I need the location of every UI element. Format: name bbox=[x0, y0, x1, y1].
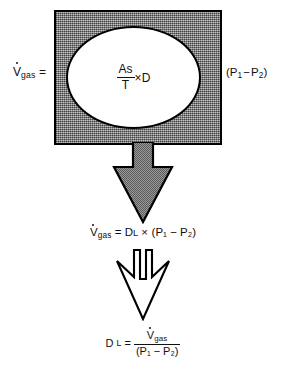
bottom-equation-row: DL = Vgas (P₁ − P₂) bbox=[106, 330, 181, 358]
mid-d-letter: D bbox=[125, 226, 133, 238]
multiplication-sign: × bbox=[135, 72, 142, 84]
left-expression: Vgas = bbox=[13, 66, 46, 80]
gray-down-arrow-icon bbox=[106, 142, 180, 224]
as-over-t-fraction: As T bbox=[117, 63, 135, 91]
mid-d-subscript: L bbox=[133, 228, 138, 238]
bottom-fraction-denominator: (P₁ − P₂) bbox=[134, 344, 181, 358]
v-dot-variable: V bbox=[13, 66, 21, 78]
mid-equals-sign: = bbox=[115, 226, 122, 238]
mid-pressure-gradient: (P₁ − P₂) bbox=[152, 226, 196, 238]
p2-letter: P bbox=[251, 66, 259, 78]
center-expression: As T × D bbox=[66, 26, 201, 129]
bottom-gas-subscript: gas bbox=[154, 334, 167, 343]
white-down-arrow-icon bbox=[113, 249, 173, 321]
d-factor: D bbox=[142, 72, 151, 84]
diffusion-capacity-figure: Vgas = As T × D (P1−P2) Vgas = DL × (P₁ … bbox=[0, 0, 286, 372]
p1-letter: P bbox=[230, 66, 238, 78]
bottom-d-letter: D bbox=[106, 338, 114, 349]
middle-equation: Vgas = DL × (P₁ − P₂) bbox=[0, 227, 286, 240]
bottom-d-subscript: L bbox=[117, 339, 122, 348]
fraction-numerator: As bbox=[117, 63, 135, 77]
dl-fraction: Vgas (P₁ − P₂) bbox=[134, 330, 181, 358]
mid-multiplication-sign: × bbox=[141, 226, 148, 238]
mid-gas-subscript: gas bbox=[98, 231, 112, 240]
bottom-v-letter: V bbox=[147, 329, 154, 341]
fraction-denominator: T bbox=[117, 77, 135, 92]
mid-v-letter: V bbox=[90, 226, 98, 238]
bottom-v-dot-variable: V bbox=[147, 330, 154, 342]
bottom-equation: DL = Vgas (P₁ − P₂) bbox=[0, 330, 286, 358]
minus-sign: − bbox=[242, 66, 251, 78]
gas-subscript: gas bbox=[21, 70, 36, 80]
v-letter: V bbox=[13, 65, 21, 79]
close-paren: ) bbox=[264, 66, 268, 78]
bottom-equals-sign: = bbox=[124, 338, 130, 349]
bottom-fraction-numerator: Vgas bbox=[134, 330, 181, 344]
bottom-overdot-icon bbox=[149, 327, 151, 329]
equals-sign: = bbox=[39, 65, 46, 79]
right-expression: (P1−P2) bbox=[226, 67, 267, 80]
mid-v-dot-variable: V bbox=[90, 227, 98, 239]
